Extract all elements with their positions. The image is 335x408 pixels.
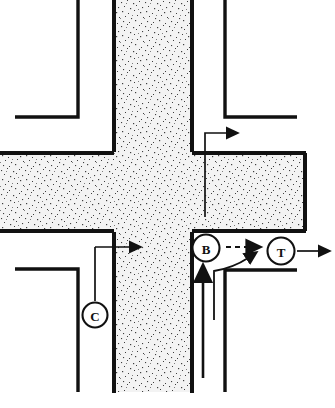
marker-b: B xyxy=(193,235,220,262)
curb-bottom-left xyxy=(15,269,78,392)
marker-c: C xyxy=(83,303,108,328)
curb-bottom-right xyxy=(225,270,297,392)
marker-t: T xyxy=(268,238,295,265)
marker-c-label: C xyxy=(90,309,99,324)
curb-top-right xyxy=(225,0,297,117)
marker-b-label: B xyxy=(202,242,211,257)
pavement-area xyxy=(0,0,306,392)
intersection-diagram: B T C xyxy=(0,0,335,408)
curb-top-left xyxy=(15,0,78,117)
horizontal-roadway-surface xyxy=(0,152,306,232)
diagram-canvas: B T C xyxy=(0,0,335,408)
arrow-curved-merge xyxy=(214,258,248,320)
marker-t-label: T xyxy=(277,245,286,260)
